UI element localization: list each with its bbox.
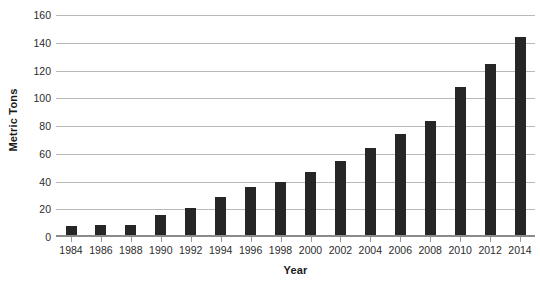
x-axis-tick	[131, 237, 132, 242]
x-axis-tick	[430, 237, 431, 242]
x-axis-tick-label: 1996	[239, 244, 262, 256]
y-axis-title-text: Metric Tons	[7, 88, 19, 151]
bar	[155, 215, 166, 237]
x-axis-tick	[221, 237, 222, 242]
x-axis-tick-label: 2012	[478, 244, 501, 256]
x-axis-tick	[161, 237, 162, 242]
y-axis-tick-label: 80	[39, 120, 51, 132]
y-axis-tick-label: 140	[33, 37, 51, 49]
x-axis-tick-labels: 1984198619881990199219941996199820002002…	[56, 244, 535, 260]
x-axis-tick	[340, 237, 341, 242]
x-axis-title: Year	[56, 264, 535, 276]
y-axis-tick-label: 120	[33, 65, 51, 77]
bar	[395, 134, 406, 237]
bar	[215, 197, 226, 237]
plot-area	[56, 15, 535, 237]
y-axis-tick-label: 60	[39, 148, 51, 160]
x-axis-tick	[191, 237, 192, 242]
bar	[245, 187, 256, 237]
x-axis-tick-label: 1998	[269, 244, 292, 256]
x-axis-tick	[370, 237, 371, 242]
x-axis-tick-label: 2004	[359, 244, 382, 256]
x-axis-tick-label: 2002	[329, 244, 352, 256]
bar	[515, 37, 526, 237]
x-axis-tick-label: 1986	[89, 244, 112, 256]
x-axis-tick-label: 2000	[299, 244, 322, 256]
x-axis-tick-label: 1988	[119, 244, 142, 256]
bar	[365, 148, 376, 237]
x-axis-tick-label: 1984	[59, 244, 82, 256]
x-axis-ticks	[56, 237, 535, 243]
x-axis-tick-label: 2006	[389, 244, 412, 256]
x-axis-tick-label: 1990	[149, 244, 172, 256]
bar	[305, 172, 316, 237]
bar	[485, 64, 496, 237]
x-axis-tick	[400, 237, 401, 242]
x-axis-tick-label: 1994	[209, 244, 232, 256]
y-axis-tick-label: 40	[39, 176, 51, 188]
x-axis-tick-label: 2014	[508, 244, 531, 256]
bar	[275, 182, 286, 238]
y-axis-tick-label: 160	[33, 9, 51, 21]
y-axis-tick-label: 20	[39, 203, 51, 215]
x-axis-tick	[520, 237, 521, 242]
x-axis-tick	[71, 237, 72, 242]
y-axis-tick-label: 100	[33, 92, 51, 104]
bar	[335, 161, 346, 237]
x-axis-tick	[311, 237, 312, 242]
bar	[185, 208, 196, 237]
bar	[455, 87, 466, 237]
y-axis-tick-labels: 020406080100120140160	[26, 0, 54, 248]
x-axis-tick-label: 2008	[419, 244, 442, 256]
x-axis-tick-label: 1992	[179, 244, 202, 256]
y-axis-title: Metric Tons	[0, 0, 26, 240]
x-axis-tick	[251, 237, 252, 242]
y-axis-tick-label: 0	[45, 231, 51, 243]
bars-layer	[56, 15, 535, 237]
x-axis-tick	[490, 237, 491, 242]
bar-chart: Metric Tons 020406080100120140160 198419…	[0, 0, 540, 288]
x-axis-tick-label: 2010	[449, 244, 472, 256]
x-axis-tick	[460, 237, 461, 242]
bar	[425, 121, 436, 238]
x-axis-tick	[101, 237, 102, 242]
x-axis-tick	[281, 237, 282, 242]
